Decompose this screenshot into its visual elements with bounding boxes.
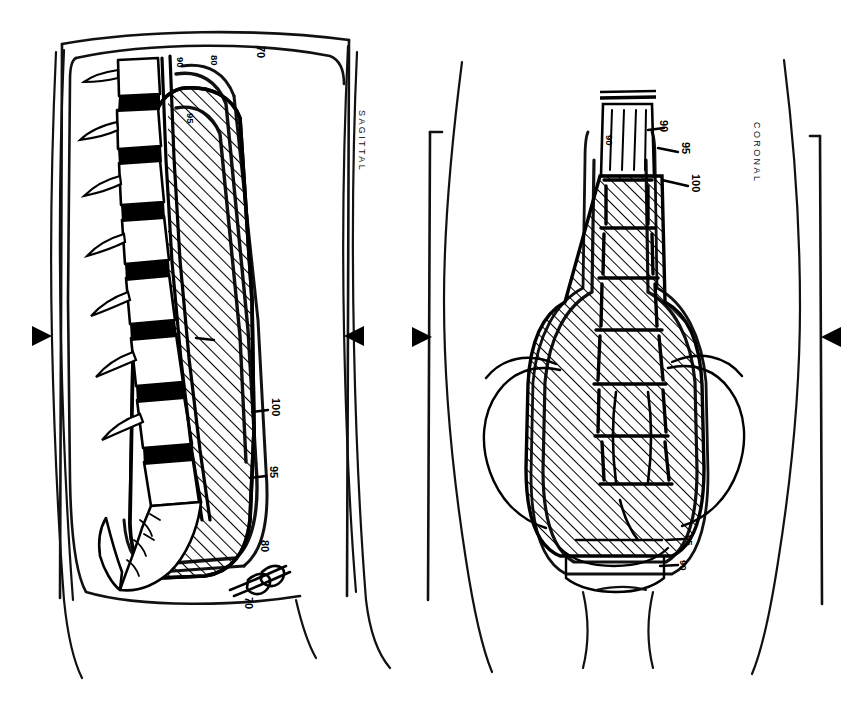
isodose-label-80-sag-low: 80 xyxy=(259,540,271,552)
panel-label-sagittal: SAGITTAL xyxy=(357,110,367,172)
isodose-label-90-cor-top: 90 xyxy=(658,120,670,132)
isodose-label-100-cor: 100 xyxy=(690,174,702,192)
isodose-label-95-cor-top: 95 xyxy=(680,142,692,154)
isodose-figure xyxy=(0,0,861,713)
field-edge-arrow-left xyxy=(32,326,52,346)
isodose-label-95-sag: 95 xyxy=(268,466,280,478)
field-edge-arrow-right xyxy=(821,327,841,347)
isodose-label-70-sag-top: 70 xyxy=(255,46,267,58)
isodose-70-spill-sagittal xyxy=(230,566,290,596)
coronal-panel xyxy=(412,60,841,674)
isodose-label-90-cor-low: 90 xyxy=(678,560,689,571)
isodose-label-95-cor-low: 95 xyxy=(684,535,695,546)
sagittal-panel xyxy=(32,32,390,678)
isodose-label-100-sag: 100 xyxy=(270,398,282,416)
isodose-label-95-sag-upper: 95 xyxy=(185,113,196,124)
isodose-label-90-cor-inner: 90 xyxy=(604,135,615,146)
thigh-contour-coronal xyxy=(583,587,653,668)
isodose-label-70-sag-low: 70 xyxy=(243,597,255,609)
panel-label-coronal: CORONAL xyxy=(752,122,762,183)
isodose-label-90-sag-top: 90 xyxy=(175,57,186,68)
isodose-label-80-sag-top: 80 xyxy=(209,55,220,66)
